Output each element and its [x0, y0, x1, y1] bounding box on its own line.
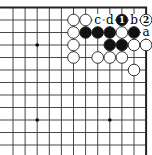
black-stone: 1: [116, 14, 128, 26]
black-stone: [128, 27, 140, 39]
white-stone: [128, 64, 140, 76]
white-stone: [104, 52, 116, 64]
star-point: [35, 118, 39, 122]
white-stone: [68, 27, 80, 39]
svg-text:c: c: [94, 13, 101, 27]
svg-text:a: a: [143, 25, 150, 39]
black-stone: [80, 27, 92, 39]
white-stone: [116, 52, 128, 64]
black-stone: [92, 27, 104, 39]
white-stone: [68, 39, 80, 51]
white-stone: [68, 14, 80, 26]
white-stone: [116, 27, 128, 39]
svg-text:d: d: [106, 13, 114, 27]
letter-label-d: d: [105, 13, 115, 27]
move-number: 1: [119, 15, 125, 25]
letter-label-a: a: [141, 25, 151, 39]
svg-text:b: b: [130, 13, 138, 27]
white-stone: [68, 52, 80, 64]
go-board-diagram: 12 cdba: [0, 0, 152, 155]
letter-label-c: c: [93, 13, 103, 27]
move-number: 2: [143, 15, 149, 25]
white-stone: [92, 52, 104, 64]
star-point: [35, 43, 39, 47]
white-stone: [80, 14, 92, 26]
white-stone: [140, 39, 152, 51]
star-point: [108, 118, 112, 122]
black-stone: [116, 39, 128, 51]
white-stone: 2: [140, 14, 152, 26]
letter-label-b: b: [129, 13, 139, 27]
white-stone: [128, 39, 140, 51]
black-stone: [104, 27, 116, 39]
black-stone: [104, 39, 116, 51]
